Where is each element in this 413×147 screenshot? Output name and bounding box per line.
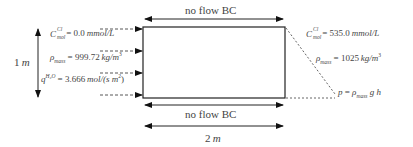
height-unit: m [22,56,30,68]
right-density-label: ρmass = 1025 kg/m3 [316,54,381,63]
width-unit: m [213,132,221,144]
height-value: 1 [14,56,20,68]
left-density-label: ρmass = 999.72 kg/m3 [50,53,122,62]
right-pressure-label: p = ρmass g h [338,88,381,97]
right-concentration-label: CClmol = 535.0 mmol/L [306,29,379,40]
domain-box [143,27,285,98]
top-boundary-label: no flow BC [185,5,236,16]
left-flux-label: qH₂O = 3.666 mol/(s m2) [41,75,124,84]
width-dimension-label: 2 m [205,133,221,144]
width-value: 2 [205,132,211,144]
height-dimension-label: 1 m [14,57,30,68]
left-concentration-label: CClmol = 0.0 mmol/L [50,29,114,40]
bottom-boundary-label: no flow BC [185,109,236,120]
